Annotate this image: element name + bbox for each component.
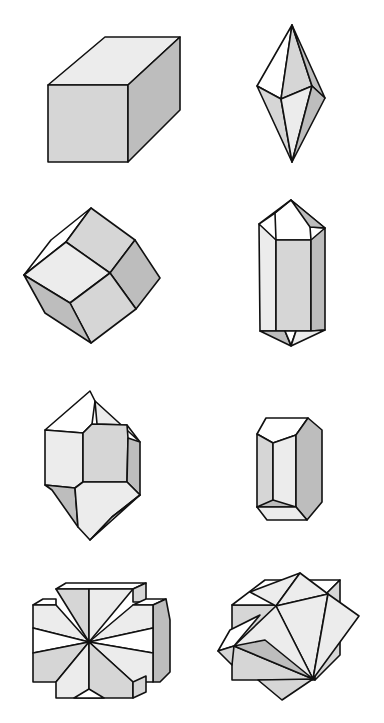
crystal-diagram <box>0 0 384 723</box>
crystal-face <box>56 583 146 589</box>
crystal-face <box>257 434 273 507</box>
crystal-face <box>259 224 276 331</box>
crystal-face <box>48 85 128 162</box>
crystal-face <box>311 228 325 331</box>
cross-twin-crystal <box>33 583 170 698</box>
crystal-face <box>83 424 128 482</box>
short-prism-crystal <box>257 418 322 520</box>
crystal-face <box>276 240 311 331</box>
crystal-face <box>296 418 322 520</box>
crystal-face <box>45 430 83 488</box>
crystal-face <box>153 599 170 682</box>
crystal-face <box>273 435 296 507</box>
